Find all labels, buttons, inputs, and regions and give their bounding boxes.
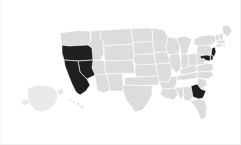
alaska-inset-group xyxy=(21,85,64,112)
state-WA[interactable] xyxy=(60,31,91,47)
frame-border-right xyxy=(240,0,241,145)
state-PA[interactable] xyxy=(197,45,212,55)
state-FL[interactable] xyxy=(190,99,207,120)
state-MN[interactable] xyxy=(152,28,168,53)
hawaii-island-1 xyxy=(69,99,71,101)
state-OR-highlighted[interactable] xyxy=(62,45,93,61)
state-SD[interactable] xyxy=(133,42,154,55)
state-NH[interactable] xyxy=(219,33,223,40)
us-states-map[interactable] xyxy=(0,0,241,145)
state-NY[interactable] xyxy=(194,35,216,46)
us-map-widget[interactable] xyxy=(0,0,241,145)
state-NM[interactable] xyxy=(107,74,124,92)
frame-border-left xyxy=(0,0,1,145)
state-OK[interactable] xyxy=(124,76,159,86)
state-NE[interactable] xyxy=(133,54,156,66)
state-ME[interactable] xyxy=(222,25,232,37)
hawaii-inset-group xyxy=(69,99,84,109)
hawaii-island-2 xyxy=(73,101,75,103)
hawaii-island-4 xyxy=(80,105,83,108)
state-NC[interactable] xyxy=(197,71,214,79)
state-CO[interactable] xyxy=(105,60,135,74)
state-RI[interactable] xyxy=(223,44,226,47)
state-IA[interactable] xyxy=(154,52,170,64)
state-CT[interactable] xyxy=(216,44,222,47)
state-KS[interactable] xyxy=(135,64,158,77)
hawaii-island-3 xyxy=(77,103,80,106)
state-LA[interactable] xyxy=(160,88,178,100)
state-WY[interactable] xyxy=(104,44,134,61)
state-AK[interactable] xyxy=(27,85,58,112)
alaska-aleutian-tail xyxy=(21,99,30,106)
frame-border-bottom xyxy=(0,144,241,145)
state-ND[interactable] xyxy=(131,28,153,43)
state-MA[interactable] xyxy=(216,40,226,44)
state-TX[interactable] xyxy=(122,85,152,112)
state-MT[interactable] xyxy=(100,29,133,47)
